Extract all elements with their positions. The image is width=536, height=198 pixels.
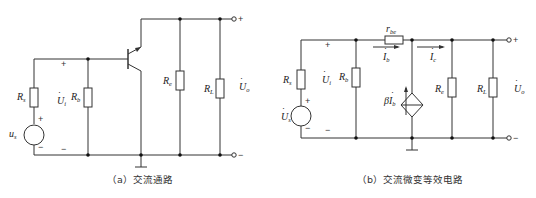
output-terminal-plus	[507, 38, 511, 42]
resistor-re	[448, 78, 456, 97]
caption-b: （b）交流微变等效电路	[357, 174, 463, 185]
ib-arrow	[394, 45, 400, 49]
ui-plus-sign: +	[61, 59, 66, 69]
resistor-rbe	[385, 36, 403, 44]
label-rb: Rb	[70, 91, 81, 103]
circuit-figures: Rs Rb Re RL us Ui · Uo · + − + − + − （a）…	[0, 0, 536, 198]
source-plus-sign: +	[38, 114, 43, 124]
out-minus-sign: −	[238, 150, 243, 160]
figure-a-ac-path: Rs Rb Re RL us Ui · Uo · + − + − + − （a）…	[9, 14, 250, 185]
label-re: Re	[162, 75, 172, 87]
output-terminal-minus	[507, 136, 511, 140]
resistor-rb	[84, 88, 92, 107]
out-minus-sign: −	[513, 133, 518, 143]
caption-a: （a）交流通路	[107, 174, 173, 185]
resistor-re	[176, 71, 184, 90]
resistor-rl	[216, 79, 224, 98]
svg-text:·: ·	[240, 73, 243, 83]
ui-minus-sign: −	[61, 144, 66, 154]
out-plus-sign: +	[513, 35, 518, 45]
source-minus-sign: −	[305, 123, 310, 133]
source-plus-sign: +	[305, 96, 310, 106]
output-terminal-minus	[232, 153, 236, 157]
resistor-rs	[297, 70, 305, 89]
label-us: us	[9, 128, 17, 140]
label-rs: Rs	[282, 74, 292, 86]
svg-text:·: ·	[391, 87, 394, 97]
label-rb: Rb	[338, 71, 349, 83]
resistor-rb	[352, 68, 360, 87]
label-rbe: rbe	[386, 23, 396, 35]
source-minus-sign: −	[38, 142, 43, 152]
svg-text:·: ·	[282, 103, 285, 113]
svg-text:·: ·	[323, 66, 326, 76]
transistor-npn	[128, 19, 141, 155]
resistor-rs	[30, 88, 38, 107]
label-rl: RL	[203, 83, 214, 95]
ui-minus-sign: −	[325, 125, 330, 135]
resistor-rl	[489, 78, 497, 97]
out-plus-sign: +	[238, 14, 243, 24]
label-rs: Rs	[16, 91, 26, 103]
ic-arrow	[439, 45, 445, 49]
svg-text:·: ·	[58, 87, 61, 97]
svg-text:·: ·	[384, 43, 387, 53]
label-beta-ib: βIb	[383, 95, 396, 107]
ui-plus-sign: +	[325, 40, 330, 50]
output-terminal-plus	[232, 17, 236, 21]
svg-text:·: ·	[431, 43, 434, 53]
label-re: Re	[434, 83, 444, 95]
svg-text:·: ·	[515, 75, 518, 85]
figure-b-small-signal-equivalent: rbe Ib · Ic · βIb · Rs Rb Re RL Ui · Us …	[281, 23, 525, 185]
label-rl: RL	[476, 83, 487, 95]
